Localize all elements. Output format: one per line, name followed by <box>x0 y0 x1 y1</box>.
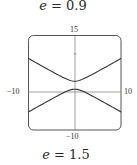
x-min-label: −10 <box>7 87 20 96</box>
y-min-label: −10 <box>66 132 79 141</box>
y-max-label: 15 <box>70 25 78 34</box>
chart-caption: e = 1.5 <box>40 147 92 162</box>
caption-value: = 1.5 <box>50 147 90 162</box>
x-max-label: 10 <box>124 87 132 96</box>
caption-variable: e <box>42 147 50 162</box>
